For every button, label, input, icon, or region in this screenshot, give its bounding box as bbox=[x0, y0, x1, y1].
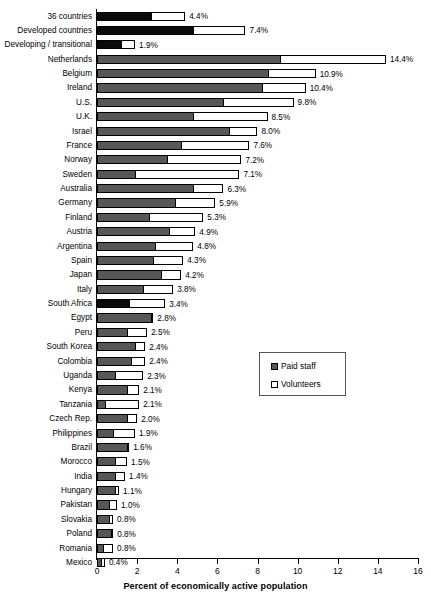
bar-value-label: 2.4% bbox=[149, 356, 168, 367]
bar-value-label: 8.5% bbox=[272, 112, 291, 123]
bar-segment-paid-staff bbox=[97, 270, 161, 279]
bar-segment-volunteers bbox=[127, 385, 139, 394]
bar-segment-volunteers bbox=[115, 472, 125, 481]
stacked-bar bbox=[97, 515, 113, 524]
chart-row: Japan4.2% bbox=[0, 269, 431, 283]
chart-row: Colombia2.4% bbox=[0, 356, 431, 370]
category-label: Australia bbox=[0, 183, 92, 194]
stacked-bar bbox=[97, 55, 386, 64]
x-tick-label: 10 bbox=[286, 566, 310, 576]
bar-segment-volunteers bbox=[151, 313, 153, 322]
stacked-bar bbox=[97, 83, 306, 92]
chart-row: Australia6.3% bbox=[0, 183, 431, 197]
category-label: Germany bbox=[0, 197, 92, 208]
x-tick-label: 12 bbox=[326, 566, 350, 576]
chart-row: Tanzania2.1% bbox=[0, 399, 431, 413]
bar-segment-volunteers bbox=[193, 26, 245, 35]
category-label: Romania bbox=[0, 543, 92, 554]
stacked-bar bbox=[97, 414, 137, 423]
bar-value-label: 9.8% bbox=[298, 97, 317, 108]
stacked-bar bbox=[97, 112, 268, 121]
bar-segment-paid-staff bbox=[97, 55, 280, 64]
stacked-bar bbox=[97, 242, 193, 251]
x-tick-mark bbox=[177, 559, 178, 564]
bar-segment-paid-staff bbox=[97, 443, 127, 452]
bar-value-label: 5.9% bbox=[219, 198, 238, 209]
category-label: Sweden bbox=[0, 169, 92, 180]
bar-segment-paid-staff bbox=[97, 141, 181, 150]
category-label: Israel bbox=[0, 126, 92, 137]
stacked-bar bbox=[97, 184, 223, 193]
bar-segment-paid-staff bbox=[97, 299, 129, 308]
y-axis-line bbox=[96, 9, 97, 560]
category-label: Czech Rep. bbox=[0, 413, 92, 424]
bar-segment-paid-staff bbox=[97, 400, 105, 409]
stacked-bar bbox=[97, 544, 113, 553]
chart-row: South Korea2.4% bbox=[0, 341, 431, 355]
stacked-bar bbox=[97, 313, 153, 322]
category-label: Slovakia bbox=[0, 514, 92, 525]
category-label: South Africa bbox=[0, 298, 92, 309]
bar-value-label: 7.1% bbox=[243, 169, 262, 180]
stacked-bar bbox=[97, 285, 173, 294]
chart-row: Netherlands14.4% bbox=[0, 54, 431, 68]
legend-swatch-volunteers-icon bbox=[271, 381, 278, 388]
bar-segment-volunteers bbox=[111, 529, 113, 538]
x-tick-label: 14 bbox=[366, 566, 390, 576]
bar-segment-paid-staff bbox=[97, 515, 109, 524]
stacked-bar bbox=[97, 299, 165, 308]
bar-segment-volunteers bbox=[135, 342, 145, 351]
bar-segment-volunteers bbox=[127, 328, 147, 337]
category-label: Ireland bbox=[0, 82, 92, 93]
bar-segment-volunteers bbox=[115, 371, 143, 380]
bar-value-label: 1.6% bbox=[133, 442, 152, 453]
category-label: Japan bbox=[0, 269, 92, 280]
bar-segment-volunteers bbox=[129, 299, 165, 308]
category-label: Mexico bbox=[0, 557, 92, 568]
chart-row: U.K.8.5% bbox=[0, 111, 431, 125]
chart-row: Germany5.9% bbox=[0, 197, 431, 211]
bar-value-label: 1.5% bbox=[131, 457, 150, 468]
bar-segment-paid-staff bbox=[97, 385, 127, 394]
bar-segment-volunteers bbox=[115, 486, 119, 495]
bar-segment-paid-staff bbox=[97, 69, 268, 78]
category-label: Hungary bbox=[0, 485, 92, 496]
chart-row: Philippines1.9% bbox=[0, 428, 431, 442]
bar-segment-paid-staff bbox=[97, 26, 193, 35]
bar-segment-volunteers bbox=[155, 242, 193, 251]
category-label: Morocco bbox=[0, 456, 92, 467]
bar-segment-volunteers bbox=[262, 83, 306, 92]
bar-segment-volunteers bbox=[143, 285, 173, 294]
bar-segment-volunteers bbox=[109, 500, 117, 509]
category-label: Philippines bbox=[0, 428, 92, 439]
chart-row: Brazil1.6% bbox=[0, 442, 431, 456]
bar-segment-paid-staff bbox=[97, 170, 135, 179]
bar-value-label: 10.4% bbox=[310, 83, 333, 94]
x-tick-mark bbox=[97, 559, 98, 564]
bar-value-label: 2.1% bbox=[143, 399, 162, 410]
chart-row: Hungary1.1% bbox=[0, 485, 431, 499]
bar-segment-paid-staff bbox=[97, 486, 115, 495]
chart-row: Norway7.2% bbox=[0, 154, 431, 168]
category-label: Kenya bbox=[0, 384, 92, 395]
x-tick-mark bbox=[418, 559, 419, 564]
bar-value-label: 7.6% bbox=[253, 140, 272, 151]
bar-segment-paid-staff bbox=[97, 213, 149, 222]
stacked-bar bbox=[97, 26, 245, 35]
bar-segment-paid-staff bbox=[97, 529, 111, 538]
stacked-bar-chart: 36 countries4.4%Developed countries7.4%D… bbox=[0, 0, 431, 599]
bar-segment-paid-staff bbox=[97, 242, 155, 251]
x-tick-mark bbox=[137, 559, 138, 564]
category-label: Belgium bbox=[0, 68, 92, 79]
bar-segment-volunteers bbox=[131, 357, 145, 366]
bar-segment-paid-staff bbox=[97, 328, 127, 337]
category-label: Finland bbox=[0, 212, 92, 223]
bar-segment-paid-staff bbox=[97, 414, 127, 423]
x-tick-mark bbox=[298, 559, 299, 564]
bar-segment-volunteers bbox=[223, 98, 293, 107]
chart-row: Pakistan1.0% bbox=[0, 499, 431, 513]
stacked-bar bbox=[97, 472, 125, 481]
bar-segment-paid-staff bbox=[97, 256, 153, 265]
stacked-bar bbox=[97, 155, 241, 164]
x-tick-label: 16 bbox=[406, 566, 430, 576]
